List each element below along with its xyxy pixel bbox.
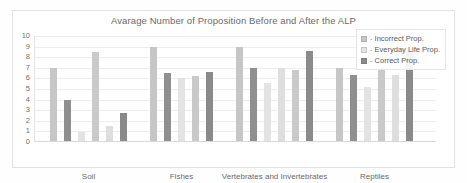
bar bbox=[178, 78, 185, 142]
y-axis-tick-label: 1 bbox=[26, 128, 30, 136]
y-axis-tick-label: 9 bbox=[26, 43, 30, 51]
legend-item[interactable]: -Incorrect Prop. bbox=[361, 33, 440, 44]
x-axis-line bbox=[34, 141, 436, 142]
legend-dash: - bbox=[370, 34, 373, 43]
bar bbox=[206, 72, 213, 142]
bar bbox=[278, 68, 285, 142]
chart-title: Avarage Number of Proposition Before and… bbox=[13, 15, 454, 26]
bar bbox=[350, 75, 357, 142]
bar bbox=[236, 47, 243, 142]
legend-item-label: Everyday Life Prop. bbox=[375, 46, 440, 54]
bar bbox=[306, 51, 313, 142]
bar bbox=[50, 68, 57, 142]
legend-item-label: Incorrect Prop. bbox=[375, 35, 424, 43]
legend-swatch-icon bbox=[361, 58, 367, 64]
legend-dash: - bbox=[370, 45, 373, 54]
y-axis-tick-label: 10 bbox=[22, 32, 30, 40]
y-axis-tick-label: 5 bbox=[26, 85, 30, 93]
y-axis-tick-label: 0 bbox=[26, 138, 30, 146]
bar bbox=[378, 68, 385, 142]
bar bbox=[264, 83, 271, 142]
chart-frame: Avarage Number of Proposition Before and… bbox=[12, 10, 455, 168]
bar bbox=[292, 70, 299, 142]
bar bbox=[250, 68, 257, 142]
bar bbox=[392, 75, 399, 142]
bar bbox=[150, 47, 157, 142]
y-axis-tick-label: 3 bbox=[26, 106, 30, 114]
bar bbox=[64, 100, 71, 142]
bar bbox=[192, 76, 199, 142]
legend-item[interactable]: -Correct Prop. bbox=[361, 55, 440, 66]
bar bbox=[164, 73, 171, 142]
legend-swatch-icon bbox=[361, 36, 367, 42]
x-axis-category-label: Soil bbox=[82, 172, 95, 181]
y-axis-tick-label: 2 bbox=[26, 117, 30, 125]
bar bbox=[364, 87, 371, 142]
y-axis-tick-label: 6 bbox=[26, 75, 30, 83]
legend-item-label: Correct Prop. bbox=[375, 57, 420, 65]
bar bbox=[120, 113, 127, 142]
x-axis-category-label: Vertebrates and Invertebrates bbox=[222, 172, 327, 181]
legend-swatch-icon bbox=[361, 47, 367, 53]
y-axis-tick-label: 4 bbox=[26, 96, 30, 104]
legend-dash: - bbox=[370, 56, 373, 65]
bar bbox=[336, 68, 343, 142]
x-axis-category-label: Reptiles bbox=[360, 172, 389, 181]
legend-item[interactable]: -Everyday Life Prop. bbox=[361, 44, 440, 55]
chart-legend: -Incorrect Prop.-Everyday Life Prop.-Cor… bbox=[356, 29, 446, 70]
x-axis-category-label: Fishes bbox=[170, 172, 194, 181]
y-axis-tick-label: 7 bbox=[26, 64, 30, 72]
bar bbox=[92, 52, 99, 142]
y-axis-tick-label: 8 bbox=[26, 53, 30, 61]
bar bbox=[106, 126, 113, 142]
